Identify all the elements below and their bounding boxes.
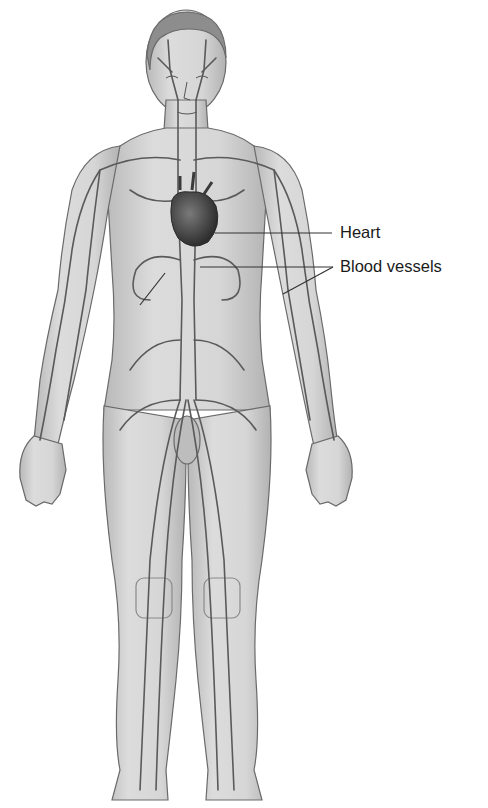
- hand-left: [20, 436, 66, 506]
- leg-right: [188, 406, 271, 800]
- leg-left: [103, 406, 186, 800]
- label-heart: Heart: [340, 224, 380, 241]
- genitals: [174, 416, 200, 464]
- neck: [164, 100, 208, 130]
- hand-right: [306, 436, 352, 506]
- label-blood-vessels: Blood vessels: [340, 258, 442, 275]
- circulatory-system-illustration: [0, 0, 488, 808]
- torso: [104, 128, 270, 410]
- body-silhouette: [20, 10, 352, 800]
